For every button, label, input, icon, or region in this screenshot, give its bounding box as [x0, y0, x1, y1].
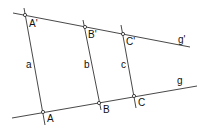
point-B	[97, 101, 100, 104]
point-A	[41, 110, 44, 113]
line-label-g: g	[177, 76, 183, 86]
point-label-c-prime: C'	[126, 37, 135, 47]
point-C	[132, 94, 135, 97]
point-label-b: B	[103, 105, 110, 115]
line-label-b: b	[84, 60, 90, 70]
line-label-g-prime: g'	[178, 35, 185, 45]
point-label-a: A	[47, 114, 54, 124]
line-label-a: a	[26, 60, 32, 70]
point-label-b-prime: B'	[88, 30, 97, 40]
point-B-prime	[83, 25, 86, 28]
point-C-prime	[121, 32, 124, 35]
line-g-prime	[13, 13, 190, 47]
line-label-c: c	[121, 60, 126, 70]
point-label-c: C	[138, 98, 145, 108]
point-A-prime	[23, 13, 26, 16]
point-label-a-prime: A'	[29, 19, 38, 29]
